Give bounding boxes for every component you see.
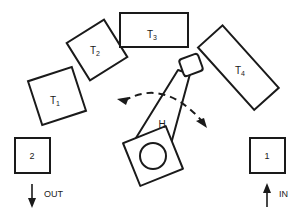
flow-out-arrowhead [28, 198, 36, 208]
machine-t4[interactable]: T4 [198, 25, 279, 110]
machine-t2[interactable]: T2 [67, 20, 128, 81]
robot-cell-diagram: T1 T2 T3 T4 [0, 0, 300, 220]
machine-t1[interactable]: T1 [28, 67, 86, 125]
station-1-label: 1 [264, 151, 269, 161]
sweep-arrowhead-right [196, 118, 207, 128]
machine-t3[interactable]: T3 [120, 13, 188, 47]
machine-t1-outline [28, 67, 86, 125]
robot-h[interactable]: H [117, 53, 207, 186]
flow-out: OUT [28, 184, 64, 208]
machine-t3-outline [120, 13, 188, 47]
flow-in: IN [263, 183, 288, 207]
flow-in-arrowhead [263, 183, 271, 193]
station-2[interactable]: 2 [15, 138, 50, 173]
station-2-label: 2 [29, 151, 34, 161]
robot-pivot-circle [140, 143, 166, 169]
station-1[interactable]: 1 [250, 138, 285, 173]
flow-in-label: IN [279, 189, 288, 199]
robot-label: H [158, 119, 165, 130]
flow-out-label: OUT [44, 189, 64, 199]
flow-group: OUT IN [28, 183, 288, 208]
sweep-arrowhead-left [117, 97, 129, 105]
